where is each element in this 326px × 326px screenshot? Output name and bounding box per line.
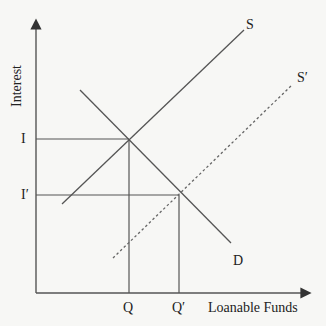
supply-label: S — [246, 18, 254, 32]
supply-curve — [62, 30, 244, 204]
supply-shifted-curve — [113, 85, 292, 258]
supply-shifted-label: S′ — [297, 71, 308, 85]
demand-label: D — [233, 254, 243, 268]
loanable-funds-diagram: Interest Loanable Funds S S′ D I I′ Q Q′ — [0, 0, 326, 326]
y-axis-label: Interest — [9, 65, 25, 107]
quantity-original-label: Q — [123, 301, 133, 315]
quantity-new-label: Q′ — [172, 301, 185, 315]
x-axis-label: Loanable Funds — [208, 301, 298, 315]
interest-new-label: I′ — [21, 188, 29, 202]
interest-original-label: I — [21, 132, 26, 146]
diagram-canvas — [0, 0, 326, 326]
